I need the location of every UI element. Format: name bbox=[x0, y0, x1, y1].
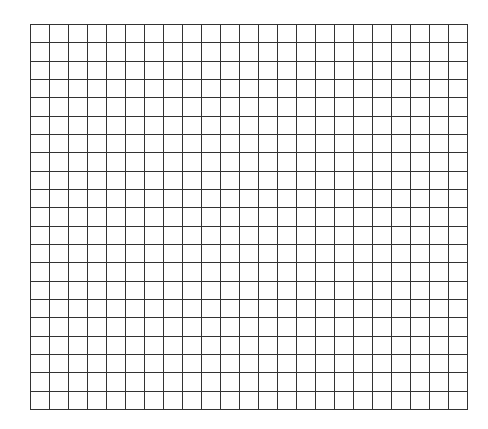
grid-diagram bbox=[0, 0, 488, 429]
grid-background bbox=[0, 0, 488, 429]
